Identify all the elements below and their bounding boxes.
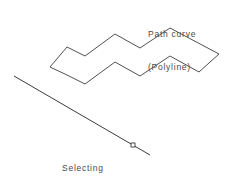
axis-of-revolution-label: Selecting axis of revolution xyxy=(62,141,106,180)
selection-grip-icon[interactable] xyxy=(131,143,135,147)
path-curve-label-line2: (Polyline) xyxy=(148,62,196,73)
path-curve-label-line1: Path curve xyxy=(148,29,196,40)
axis-label-line1: Selecting xyxy=(62,163,106,174)
cad-diagram-canvas: Path curve (Polyline) Selecting axis of … xyxy=(0,0,249,180)
diagram-svg xyxy=(0,0,249,180)
path-curve-label: Path curve (Polyline) xyxy=(148,7,196,95)
